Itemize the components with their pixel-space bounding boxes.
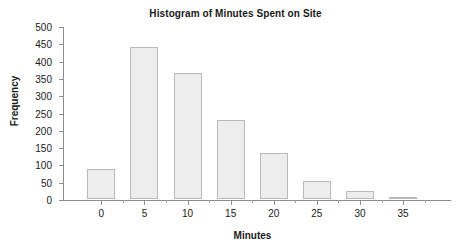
- chart-title: Histogram of Minutes Spent on Site: [0, 8, 471, 19]
- y-axis-title: Frequency: [9, 56, 23, 146]
- x-axis-tick: [101, 200, 102, 205]
- y-axis-tick-label: 500: [35, 22, 52, 33]
- y-axis-tick: 200: [59, 131, 63, 132]
- y-axis-line: [63, 27, 64, 201]
- x-axis-tick: [231, 200, 232, 205]
- x-axis-tick: [274, 200, 275, 205]
- x-axis-tick: [403, 200, 404, 205]
- x-axis-tick: [188, 200, 189, 205]
- y-axis-tick-label: 100: [35, 160, 52, 171]
- y-axis-tick: 300: [59, 96, 63, 97]
- x-axis-tick-label: 20: [268, 208, 279, 219]
- x-axis-minor-tick: [123, 200, 124, 203]
- x-axis-minor-tick: [166, 200, 167, 203]
- y-axis-tick: 450: [59, 44, 63, 45]
- y-axis-tick-label: 250: [35, 108, 52, 119]
- x-axis-minor-tick: [382, 200, 383, 203]
- histogram-bar: [87, 169, 115, 199]
- y-axis-tick-label: 350: [35, 73, 52, 84]
- x-axis-tick: [360, 200, 361, 205]
- histogram-bar: [260, 153, 288, 199]
- x-axis-tick-label: 15: [225, 208, 236, 219]
- histogram-bar: [174, 73, 202, 199]
- y-axis-tick: 150: [59, 148, 63, 149]
- y-axis-tick: 350: [59, 79, 63, 80]
- histogram-bar: [130, 47, 158, 199]
- plot-area: 050100150200250300350400450500 051015202…: [63, 27, 451, 200]
- x-axis-tick-label: 10: [182, 208, 193, 219]
- x-axis-tick-label: 25: [311, 208, 322, 219]
- histogram-figure: Histogram of Minutes Spent on Site Frequ…: [0, 0, 471, 250]
- y-axis-tick-label: 200: [35, 125, 52, 136]
- y-axis-tick: 100: [59, 165, 63, 166]
- y-axis-tick: 400: [59, 62, 63, 63]
- histogram-bar: [303, 181, 331, 199]
- x-axis-tick-label: 0: [99, 208, 105, 219]
- x-axis-minor-tick: [209, 200, 210, 203]
- x-axis-title: Minutes: [55, 230, 450, 241]
- y-axis-tick: 50: [59, 183, 63, 184]
- x-axis-tick: [317, 200, 318, 205]
- y-axis-tick-label: 50: [41, 177, 52, 188]
- histogram-bar: [217, 120, 245, 199]
- x-axis-minor-tick: [252, 200, 253, 203]
- histogram-bar: [389, 197, 417, 199]
- histogram-bar: [346, 191, 374, 199]
- x-axis-minor-tick: [338, 200, 339, 203]
- y-axis-tick-label: 400: [35, 56, 52, 67]
- y-axis-tick-label: 450: [35, 39, 52, 50]
- y-axis-tick-label: 300: [35, 91, 52, 102]
- y-axis-tick: 0: [59, 200, 63, 201]
- y-axis-tick-label: 0: [46, 195, 52, 206]
- x-axis-minor-tick: [295, 200, 296, 203]
- y-axis-tick-label: 150: [35, 143, 52, 154]
- x-axis-tick-label: 35: [398, 208, 409, 219]
- x-axis-tick: [144, 200, 145, 205]
- x-axis-line: [63, 200, 451, 201]
- x-axis-minor-tick: [425, 200, 426, 203]
- x-axis-tick-label: 5: [142, 208, 148, 219]
- x-axis-tick-label: 30: [354, 208, 365, 219]
- y-axis-tick: 250: [59, 114, 63, 115]
- y-axis-tick: 500: [59, 27, 63, 28]
